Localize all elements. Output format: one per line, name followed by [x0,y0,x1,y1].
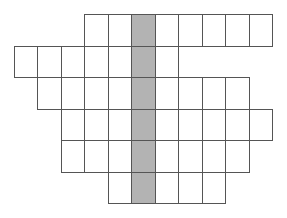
grid-cell [249,14,273,47]
grid-cell [61,140,85,173]
shaded-grid-cell [131,14,156,47]
grid-cell [225,14,250,47]
grid-cell [155,172,179,204]
grid-cell [108,172,132,204]
cell-grid-diagram [0,0,287,218]
grid-cell [202,140,226,173]
grid-cell [178,77,203,110]
grid-cell [155,46,179,78]
grid-cell [84,109,109,141]
grid-cell [178,140,203,173]
grid-cell [202,14,226,47]
grid-cell [202,172,226,204]
grid-cell [14,46,38,78]
grid-cell [37,46,62,78]
grid-cell [155,14,179,47]
grid-cell [249,109,273,141]
grid-cell [108,140,132,173]
grid-cell [108,109,132,141]
grid-cell [155,77,179,110]
grid-cell [178,172,203,204]
grid-cell [202,109,226,141]
grid-cell [178,14,203,47]
grid-cell [84,46,109,78]
grid-cell [108,46,132,78]
grid-cell [202,77,226,110]
grid-cell [108,77,132,110]
shaded-grid-cell [131,77,156,110]
grid-cell [84,77,109,110]
grid-cell [225,140,250,173]
grid-cell [225,109,250,141]
grid-cell [84,140,109,173]
grid-cell [108,14,132,47]
shaded-grid-cell [131,172,156,204]
grid-cell [37,77,62,110]
grid-cell [61,46,85,78]
shaded-grid-cell [131,140,156,173]
grid-cell [178,109,203,141]
shaded-grid-cell [131,46,156,78]
grid-cell [84,14,109,47]
grid-cell [61,109,85,141]
grid-cell [61,77,85,110]
shaded-grid-cell [131,109,156,141]
grid-cell [155,140,179,173]
grid-cell [225,77,250,110]
grid-cell [155,109,179,141]
